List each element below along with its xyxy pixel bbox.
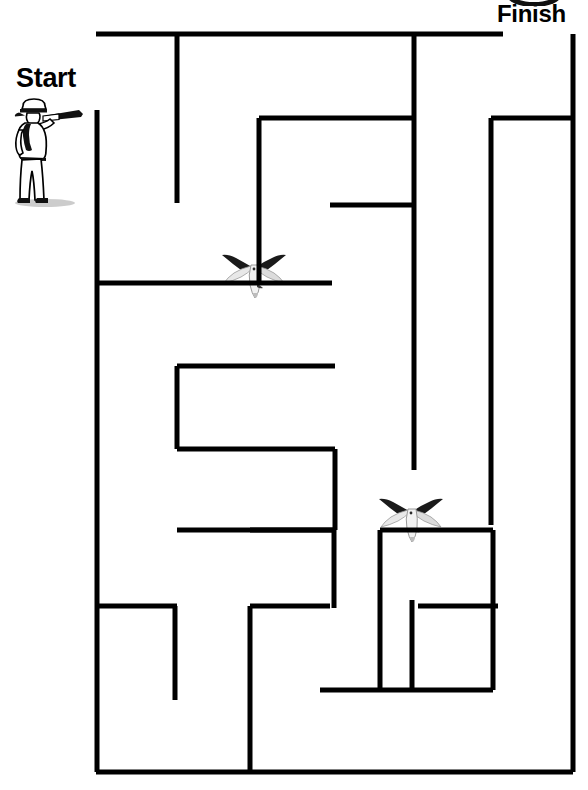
maze-grid [0,0,588,790]
maze-wall-group [96,34,573,772]
